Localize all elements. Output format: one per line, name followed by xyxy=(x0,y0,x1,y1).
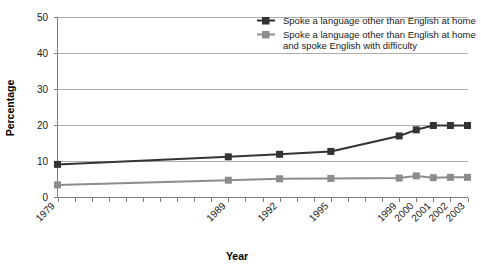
y-tick-label-30: 30 xyxy=(37,84,49,95)
data-point-marker xyxy=(54,181,61,188)
data-point-marker xyxy=(430,122,437,129)
data-point-marker xyxy=(396,132,403,139)
series-line-2 xyxy=(58,176,468,185)
legend-label-2-line2: and spoke English with difficulty xyxy=(283,40,417,51)
legend-item-2: Spoke a language other than English at h… xyxy=(257,29,476,51)
data-point-marker xyxy=(327,148,334,155)
x-tick-label-1992: 1992 xyxy=(255,200,279,224)
data-point-marker xyxy=(447,174,454,181)
legend-label-1: Spoke a language other than English at h… xyxy=(283,15,476,26)
data-point-marker xyxy=(464,174,471,181)
series-2 xyxy=(54,172,471,188)
y-tick-label-40: 40 xyxy=(37,48,49,59)
legend-marker-1 xyxy=(262,17,270,25)
data-point-marker xyxy=(430,174,437,181)
y-tick-marks xyxy=(54,18,58,198)
y-tick-label-20: 20 xyxy=(37,120,49,131)
data-point-marker xyxy=(276,175,283,182)
data-point-marker xyxy=(413,126,420,133)
legend-label-2: Spoke a language other than English at h… xyxy=(283,29,476,40)
x-tick-labels: 197919891992199519992000200120022003 xyxy=(33,200,467,224)
legend-item-1: Spoke a language other than English at h… xyxy=(257,15,476,26)
x-tick-label-1989: 1989 xyxy=(204,200,228,224)
x-tick-label-1979: 1979 xyxy=(33,200,57,224)
data-point-marker xyxy=(464,122,471,129)
data-point-marker xyxy=(54,161,61,168)
y-tick-label-50: 50 xyxy=(37,12,49,23)
y-tick-label-10: 10 xyxy=(37,156,49,167)
chart-figure: 50 40 30 20 10 0 Percentage 197919891992… xyxy=(0,0,481,269)
chart-legend: Spoke a language other than English at h… xyxy=(257,15,476,51)
line-chart: 50 40 30 20 10 0 Percentage 197919891992… xyxy=(0,0,481,269)
data-point-marker xyxy=(276,151,283,158)
x-tick-label-2003: 2003 xyxy=(443,200,467,224)
series-line-1 xyxy=(58,126,468,165)
y-tick-labels: 50 40 30 20 10 0 xyxy=(37,12,49,203)
x-tick-label-1995: 1995 xyxy=(307,200,331,224)
y-axis-title: Percentage xyxy=(4,80,16,137)
data-point-marker xyxy=(327,175,334,182)
data-series-layer xyxy=(54,122,471,188)
data-point-marker xyxy=(447,122,454,129)
data-point-marker xyxy=(413,172,420,179)
data-point-marker xyxy=(225,153,232,160)
data-point-marker xyxy=(396,175,403,182)
series-1 xyxy=(54,122,471,168)
data-point-marker xyxy=(225,177,232,184)
legend-marker-2 xyxy=(262,31,270,39)
x-axis-title: Year xyxy=(226,250,248,262)
